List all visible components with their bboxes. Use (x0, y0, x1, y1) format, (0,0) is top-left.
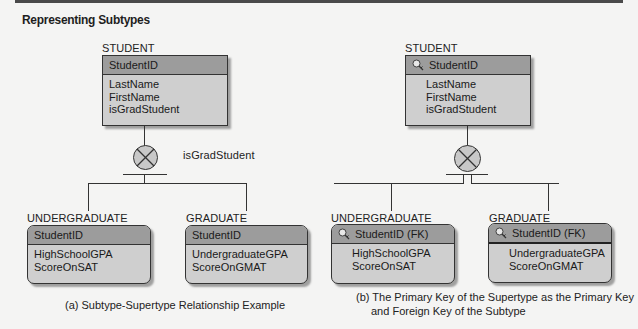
supertype-label: STUDENT (405, 42, 458, 54)
attribute: ScoreOnSAT (34, 261, 150, 274)
entity-key: StudentID (429, 56, 478, 74)
subtype-label-graduate: GRADUATE (186, 212, 247, 224)
subtype-label-undergraduate: UNDERGRADUATE (331, 212, 432, 224)
attribute: LastName (426, 78, 530, 91)
attribute: isGradStudent (426, 103, 530, 116)
entity-attributes: LastName FirstName isGradStudent (406, 75, 530, 116)
subtype-label-undergraduate: UNDERGRADUATE (27, 212, 128, 224)
category-bar (446, 174, 488, 175)
attribute: ScoreOnGMAT (192, 261, 307, 274)
key-icon (495, 227, 507, 239)
category-symbol-icon (132, 144, 159, 171)
caption-a: (a) Subtype-Supertype Relationship Examp… (65, 299, 285, 311)
entity-key: StudentID (FK) (355, 225, 428, 243)
entity-attributes: UndergraduateGPA ScoreOnGMAT (186, 245, 307, 273)
connector-line (334, 183, 464, 184)
entity-key-row: StudentID (FK) (489, 224, 611, 244)
discriminator-label: isGradStudent (183, 149, 255, 161)
supertype-entity-student: StudentID LastName FirstName isGradStude… (405, 55, 531, 126)
subtype-entity-undergraduate: StudentID HighSchoolGPA ScoreOnSAT (27, 225, 151, 284)
attribute: UndergraduateGPA (192, 248, 307, 261)
connector-line (88, 183, 247, 184)
attribute: FirstName (426, 91, 530, 104)
top-rule (15, 0, 623, 3)
entity-attributes: LastName FirstName isGradStudent (103, 75, 227, 116)
caption-b-line1: (b) The Primary Key of the Supertype as … (356, 291, 634, 303)
attribute: HighSchoolGPA (352, 247, 454, 260)
supertype-entity-student: StudentID LastName FirstName isGradStude… (102, 55, 228, 126)
attribute: ScoreOnSAT (352, 260, 454, 273)
key-icon (338, 228, 350, 240)
category-bar (123, 174, 167, 175)
connector-line (467, 126, 468, 146)
subtype-entity-graduate: StudentID UndergraduateGPA ScoreOnGMAT (185, 225, 308, 284)
figure-title: Representing Subtypes (22, 12, 150, 27)
entity-key: StudentID (28, 226, 150, 245)
entity-attributes: UndergraduateGPA ScoreOnGMAT (489, 244, 611, 272)
attribute: HighSchoolGPA (34, 248, 150, 261)
entity-key: StudentID (103, 56, 227, 75)
connector-line (88, 183, 89, 211)
attribute: FirstName (109, 91, 227, 104)
connector-line (144, 126, 145, 146)
entity-key-row: StudentID (406, 56, 530, 75)
category-symbol-icon (453, 144, 482, 173)
attribute: UndergraduateGPA (509, 247, 611, 260)
connector-line (548, 183, 549, 211)
caption-b-line2: and Foreign Key of the Subtype (371, 305, 526, 317)
supertype-label: STUDENT (102, 42, 155, 54)
subtype-entity-undergraduate: StudentID (FK) HighSchoolGPA ScoreOnSAT (331, 224, 455, 284)
connector-line (246, 183, 247, 211)
entity-attributes: HighSchoolGPA ScoreOnSAT (28, 245, 150, 273)
connector-line (391, 183, 392, 211)
entity-key: StudentID (FK) (512, 224, 585, 242)
attribute: isGradStudent (109, 103, 227, 116)
entity-attributes: HighSchoolGPA ScoreOnSAT (332, 244, 454, 272)
attribute: ScoreOnGMAT (509, 260, 611, 273)
attribute: LastName (109, 78, 227, 91)
connector-line (471, 183, 559, 184)
subtype-entity-graduate: StudentID (FK) UndergraduateGPA ScoreOnG… (488, 223, 612, 283)
entity-key-row: StudentID (FK) (332, 225, 454, 244)
entity-key: StudentID (186, 226, 307, 245)
key-icon (412, 59, 424, 71)
